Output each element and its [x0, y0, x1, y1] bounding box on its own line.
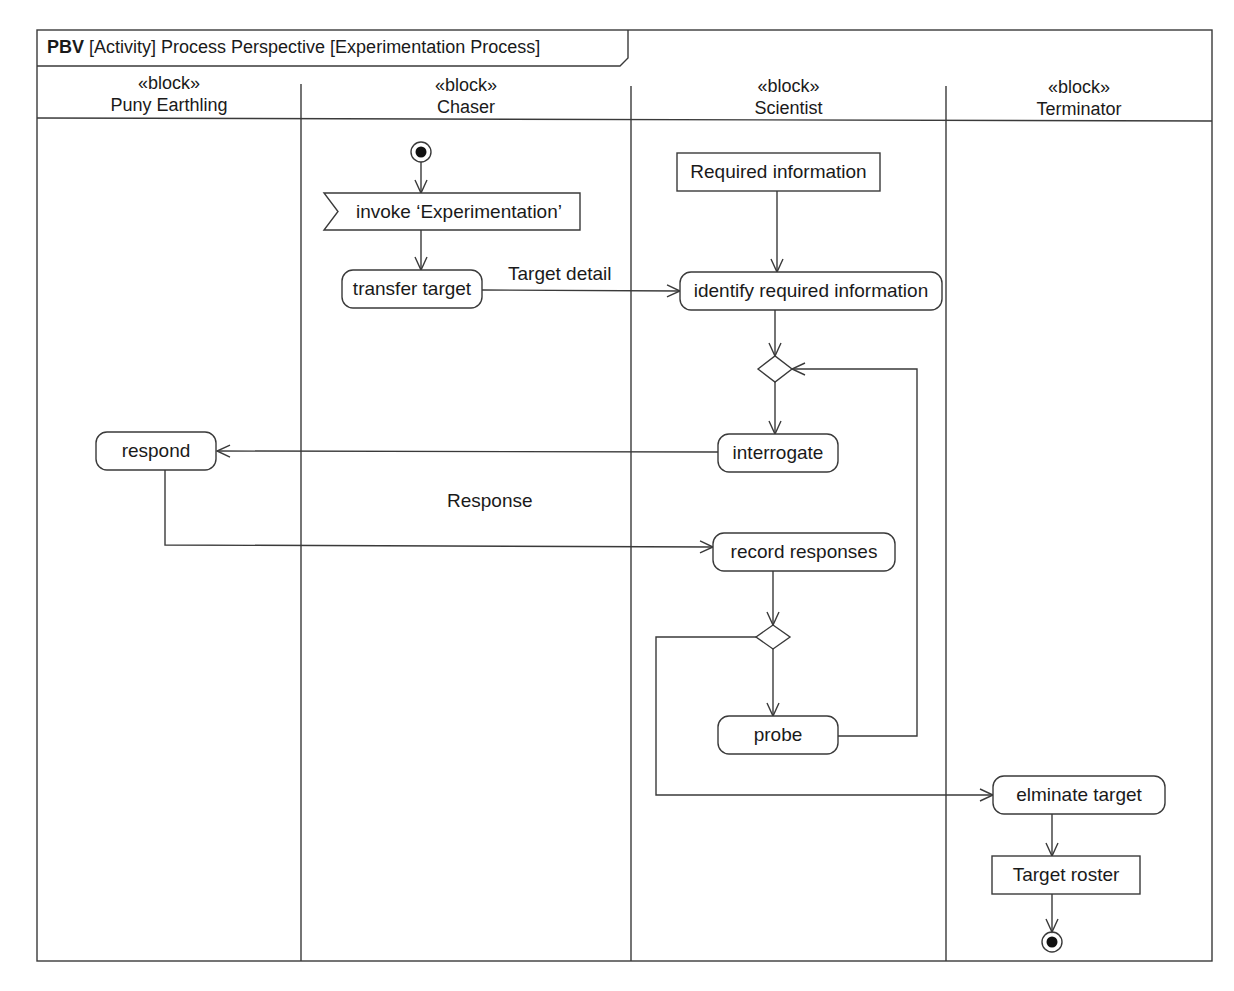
diagram-kind: PBV	[47, 37, 84, 57]
diagram-frame	[37, 30, 1212, 961]
lane-stereotype: «block»	[946, 76, 1212, 98]
interrogate-action[interactable]: interrogate	[718, 434, 838, 472]
lane-stereotype: «block»	[631, 75, 946, 97]
lane-name: Chaser	[301, 96, 631, 118]
respond-action[interactable]: respond	[96, 432, 216, 470]
required-information-object[interactable]: Required information	[677, 153, 880, 191]
decision-node	[756, 625, 790, 649]
lane-stereotype: «block»	[301, 74, 631, 96]
lane-name: Puny Earthling	[37, 94, 301, 116]
identify-required-information-action[interactable]: identify required information	[680, 272, 942, 310]
diagram-title-text: [Activity] Process Perspective [Experime…	[89, 37, 540, 57]
probe-action[interactable]: probe	[718, 716, 838, 754]
record-responses-action[interactable]: record responses	[713, 533, 895, 571]
diagram-title: PBV [Activity] Process Perspective [Expe…	[47, 37, 540, 58]
lane-header-scientist: «block» Scientist	[631, 75, 946, 119]
lane-header-terminator: «block» Terminator	[946, 76, 1212, 120]
lane-header-chaser: «block» Chaser	[301, 74, 631, 118]
invoke-experimentation-label[interactable]: invoke ‘Experimentation’	[338, 193, 580, 230]
lane-name: Scientist	[631, 97, 946, 119]
edge-label-target-detail: Target detail	[508, 264, 612, 283]
decision-node	[758, 356, 792, 382]
lane-header-puny-earthling: «block» Puny Earthling	[37, 72, 301, 116]
eliminate-target-action[interactable]: elminate target	[993, 776, 1165, 814]
activity-diagram-canvas	[0, 0, 1234, 991]
lane-stereotype: «block»	[37, 72, 301, 94]
target-roster-object[interactable]: Target roster	[992, 856, 1140, 894]
lane-name: Terminator	[946, 98, 1212, 120]
edge-label-response: Response	[447, 491, 533, 510]
transfer-target-action[interactable]: transfer target	[342, 270, 482, 308]
